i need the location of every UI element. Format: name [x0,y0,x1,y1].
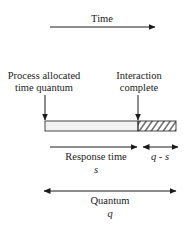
time-label: Time [91,13,113,25]
diagram-canvas [0,0,192,228]
response-bar [45,121,138,131]
quantum-label: Quantum [90,195,129,207]
start-label-line1: Process allocated [8,70,81,82]
end-label-line2: complete [120,82,158,94]
response-time-symbol: s [94,164,98,176]
remainder-symbol: q - s [151,151,169,163]
end-label-line1: Interaction [116,70,161,82]
quantum-symbol: q [107,208,112,220]
response-time-label: Response time [65,151,127,163]
remainder-bar-hatch [138,121,176,131]
start-label-line2: time quantum [15,82,73,94]
